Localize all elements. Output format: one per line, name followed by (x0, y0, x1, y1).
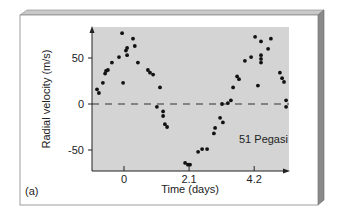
data-point (165, 125, 169, 129)
data-point (106, 68, 110, 72)
x-tick-label: 0 (121, 173, 127, 185)
data-point (221, 121, 225, 125)
data-point (125, 46, 129, 50)
frame-side-bevel (318, 10, 324, 205)
data-point (237, 77, 241, 81)
data-point (282, 80, 286, 84)
y-axis-label: Radial velocity (m/s) (40, 49, 52, 148)
data-point (110, 61, 114, 65)
data-point (200, 147, 204, 151)
data-point (117, 55, 121, 59)
data-point (155, 105, 159, 109)
data-point (220, 102, 224, 106)
data-point (158, 86, 162, 90)
data-point (259, 40, 263, 44)
y-tick-label: -50 (68, 144, 84, 156)
data-point (253, 35, 257, 39)
panel-label: (a) (25, 185, 38, 197)
x-axis-label: Time (days) (161, 183, 219, 195)
data-point (97, 91, 101, 95)
data-point (269, 37, 273, 41)
data-point (205, 147, 209, 151)
data-point (213, 126, 217, 130)
x-tick-label: 4.2 (247, 173, 262, 185)
radial-velocity-chart: -50050 02.14.2 Radial velocity (m/s) Tim… (0, 0, 346, 215)
data-point (212, 132, 216, 136)
star-annotation: 51 Pegasi (239, 133, 288, 145)
data-point (278, 71, 282, 75)
data-point (231, 86, 235, 90)
y-tick-label: 0 (78, 98, 84, 110)
data-point (136, 61, 140, 65)
data-point (196, 150, 200, 154)
data-point (284, 98, 288, 102)
data-point (226, 101, 230, 105)
data-point (218, 116, 222, 120)
data-point (161, 114, 165, 118)
data-point (120, 31, 124, 35)
data-point (259, 53, 263, 57)
frame-top-bevel (20, 10, 324, 15)
data-point (259, 61, 263, 65)
data-point (151, 73, 155, 77)
data-point (121, 81, 125, 85)
data-point (101, 81, 105, 85)
data-point (125, 53, 129, 57)
data-point (133, 44, 137, 48)
data-point (243, 59, 247, 63)
data-point (161, 110, 165, 114)
plot-area (92, 27, 289, 171)
data-point (249, 55, 253, 59)
y-tick-label: 50 (72, 52, 84, 64)
data-point (256, 84, 260, 88)
data-point (284, 105, 288, 109)
data-point (259, 57, 263, 61)
data-point (229, 98, 233, 102)
data-point (131, 37, 135, 41)
data-point (95, 87, 99, 91)
data-point (280, 76, 284, 80)
data-point (266, 47, 270, 51)
